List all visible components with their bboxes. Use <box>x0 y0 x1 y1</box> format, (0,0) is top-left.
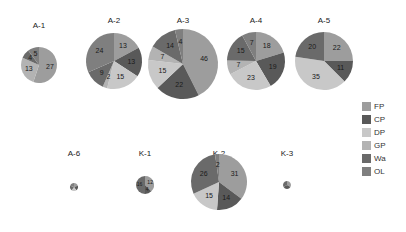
pie-title: A-1 <box>33 21 46 30</box>
legend-label: DP <box>374 128 385 137</box>
legend-item-wa: Wa <box>362 152 386 165</box>
slice-label: 13 <box>119 42 127 49</box>
slice-label: 22 <box>333 44 341 51</box>
pie-k-1: K-112416 <box>136 149 154 194</box>
pie-a-5: A-522113520 <box>295 16 353 90</box>
slice-label: 15 <box>116 73 124 80</box>
pie-title: A-2 <box>108 16 121 25</box>
slice-label: 22 <box>175 81 183 88</box>
legend-label: CP <box>374 115 385 124</box>
pie-title: A-4 <box>250 16 263 25</box>
pie-title: K-3 <box>281 149 294 158</box>
slice-label: 12 <box>147 179 153 185</box>
legend-item-ol: OL <box>362 165 386 178</box>
slice-label: 27 <box>46 63 54 70</box>
legend-label: GP <box>374 141 386 150</box>
legend-label: OL <box>374 167 385 176</box>
slice-label: 4 <box>146 186 149 192</box>
pie-title: K-1 <box>139 149 152 158</box>
pie-a-1: A-1271345 <box>21 21 57 83</box>
slice-label: 13 <box>25 65 33 72</box>
slice-label: 7 <box>160 53 164 60</box>
pie-a-6: A-6 <box>68 149 81 191</box>
slice-label: 24 <box>96 47 104 54</box>
legend-item-cp: CP <box>362 113 386 126</box>
slice-label: 15 <box>205 192 213 199</box>
pie-title: A-5 <box>318 16 331 25</box>
slice-label: 20 <box>308 43 316 50</box>
pie-k-3: K-3 <box>281 149 294 189</box>
slice-label: 7 <box>237 61 241 68</box>
slice-label: 19 <box>269 63 277 70</box>
slice-label: 35 <box>312 73 320 80</box>
slice-label: 31 <box>231 170 239 177</box>
pie-title: A-3 <box>177 16 190 25</box>
legend-swatch <box>362 128 371 137</box>
pie-k-2: K-2311415262 <box>191 149 247 210</box>
legend-label: FP <box>374 102 384 111</box>
slice-label: 13 <box>127 58 135 65</box>
slice-label: 14 <box>166 42 174 49</box>
legend-item-fp: FP <box>362 100 386 113</box>
legend-label: Wa <box>374 154 386 163</box>
slice-label: 46 <box>200 55 208 62</box>
pie-a-2: A-21313152924 <box>86 16 142 89</box>
legend-swatch <box>362 167 371 176</box>
slice-label: 11 <box>337 64 344 71</box>
slice-label: 16 <box>137 181 143 187</box>
slice-label: 18 <box>263 42 271 49</box>
slice-label: 9 <box>100 69 104 76</box>
legend: FPCPDPGPWaOL <box>362 100 386 178</box>
slice-label: 15 <box>159 67 167 74</box>
legend-item-gp: GP <box>362 139 386 152</box>
slice-label: 23 <box>247 74 255 81</box>
pie-a-4: A-41819237157 <box>227 16 285 90</box>
legend-swatch <box>362 141 371 150</box>
slice-label: 2 <box>216 161 220 168</box>
legend-item-dp: DP <box>362 126 386 139</box>
slice-label: 26 <box>200 170 208 177</box>
slice-label: 5 <box>34 50 38 57</box>
slice-label: 15 <box>237 47 245 54</box>
pie-title: A-6 <box>68 149 81 158</box>
pie-a-3: A-34622157144 <box>148 16 218 99</box>
pie-chart-grid: A-1271345A-21313152924A-34622157144A-418… <box>0 0 406 232</box>
legend-swatch <box>362 115 371 124</box>
slice-label: 14 <box>222 194 230 201</box>
legend-swatch <box>362 154 371 163</box>
slice-label: 4 <box>179 38 183 45</box>
slice-label: 7 <box>250 39 254 46</box>
legend-swatch <box>362 102 371 111</box>
